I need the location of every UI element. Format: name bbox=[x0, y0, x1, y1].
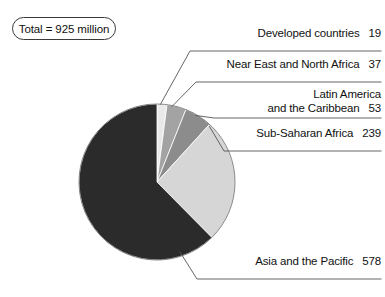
callout-label-line1: Latin America bbox=[267, 88, 381, 102]
callout-row: Sub-Saharan Africa239 bbox=[256, 127, 381, 141]
pie-and-leader-lines bbox=[0, 0, 385, 297]
callout-sub-saharan-africa[interactable]: Sub-Saharan Africa239 bbox=[256, 127, 381, 141]
callout-row: Near East and North Africa37 bbox=[227, 58, 381, 72]
callout-value: 239 bbox=[362, 127, 381, 141]
callout-row: Asia and the Pacific578 bbox=[255, 255, 381, 269]
callout-value: 53 bbox=[369, 102, 382, 116]
pie-slices bbox=[79, 104, 235, 260]
callout-label-line2: and the Caribbean bbox=[267, 102, 359, 114]
callout-label: Sub-Saharan Africa bbox=[256, 127, 353, 139]
callout-label: Asia and the Pacific bbox=[255, 255, 353, 267]
callout-value: 37 bbox=[369, 58, 382, 72]
callout-row: Developed countries19 bbox=[258, 27, 382, 41]
callout-developed-countries[interactable]: Developed countries19 bbox=[258, 27, 382, 41]
leader-line-latin-america-and-the-caribbean bbox=[196, 116, 381, 119]
callout-value: 19 bbox=[369, 27, 382, 41]
callout-label: Developed countries bbox=[258, 27, 360, 39]
pie-chart-figure: Total = 925 million Developed countries1… bbox=[0, 0, 385, 297]
callout-asia-and-the-pacific[interactable]: Asia and the Pacific578 bbox=[255, 255, 381, 269]
callout-latin-america-and-the-caribbean[interactable]: Latin America and the Caribbean53 bbox=[267, 88, 381, 115]
callout-label: Near East and North Africa bbox=[227, 58, 360, 70]
callout-near-east-and-north-africa[interactable]: Near East and North Africa37 bbox=[227, 58, 381, 72]
callout-value: 578 bbox=[362, 255, 381, 269]
callout-row: and the Caribbean53 bbox=[267, 102, 381, 116]
